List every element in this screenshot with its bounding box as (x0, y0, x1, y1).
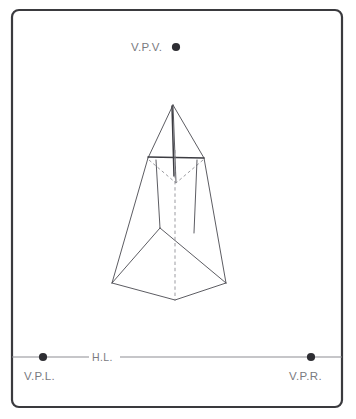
label-vpv: V.P.V. (131, 41, 162, 53)
vpr-dot-icon (307, 353, 315, 361)
diagram-canvas: V.P.V. H.L. V.P.L. V.P.R. (0, 0, 356, 419)
diagram-frame (12, 10, 342, 407)
vpv-dot-icon (172, 43, 180, 51)
label-hl: H.L. (92, 351, 113, 363)
cap-front-base-line (148, 157, 204, 158)
vpl-dot-icon (39, 353, 47, 361)
label-vpr: V.P.R. (289, 370, 322, 382)
perspective-diagram: V.P.V. H.L. V.P.L. V.P.R. (0, 0, 356, 419)
label-vpl: V.P.L. (24, 370, 55, 382)
